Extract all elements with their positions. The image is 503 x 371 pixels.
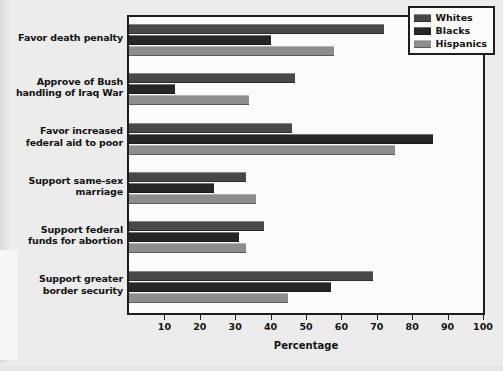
x-axis-tick: [271, 315, 272, 320]
legend-swatch-icon: [414, 14, 431, 22]
category-label-line: Support federal: [3, 224, 123, 236]
category-label-line: Favor death penalty: [3, 32, 123, 44]
x-axis-title: Percentage: [129, 340, 483, 351]
legend-label: Hispanics: [436, 38, 487, 49]
legend-item[interactable]: Hispanics: [414, 37, 487, 50]
category-label-line: border security: [3, 285, 123, 297]
x-axis-tick-label: 20: [193, 321, 206, 332]
bar-group: [129, 221, 483, 254]
bar-row: [129, 145, 483, 155]
bar[interactable]: [129, 172, 246, 182]
category-label: Support same-sexmarriage: [3, 175, 123, 198]
x-axis-tick: [412, 315, 413, 320]
x-axis-tick-label: 80: [406, 321, 419, 332]
bar-row: [129, 243, 483, 253]
category-label: Favor increasedfederal aid to poor: [3, 125, 123, 148]
bar[interactable]: [129, 73, 295, 83]
bar-row: [129, 271, 483, 281]
bar[interactable]: [129, 271, 373, 281]
bar[interactable]: [129, 293, 288, 303]
category-label-line: handling of Iraq War: [3, 87, 123, 99]
x-axis-tick-label: 40: [264, 321, 277, 332]
x-axis-tick: [448, 315, 449, 320]
x-axis-tick: [306, 315, 307, 320]
bar-row: [129, 194, 483, 204]
category-label-line: federal aid to poor: [3, 137, 123, 149]
x-axis-tick: [235, 315, 236, 320]
x-axis-tick: [377, 315, 378, 320]
bar-row: [129, 293, 483, 303]
x-axis-tick: [483, 315, 484, 320]
x-axis-tick-label: 10: [158, 321, 171, 332]
category-label: Approve of Bushhandling of Iraq War: [3, 76, 123, 99]
legend-item[interactable]: Whites: [414, 11, 487, 24]
x-axis-tick: [341, 315, 342, 320]
bar[interactable]: [129, 194, 256, 204]
category-label-line: Favor increased: [3, 125, 123, 137]
bar-group: [129, 172, 483, 205]
category-label-line: Support same-sex: [3, 175, 123, 187]
bar-row: [129, 172, 483, 182]
bar[interactable]: [129, 35, 271, 45]
bar[interactable]: [129, 24, 384, 34]
bar-row: [129, 232, 483, 242]
bar-row: [129, 183, 483, 193]
legend-label: Whites: [436, 12, 473, 23]
category-label-line: marriage: [3, 186, 123, 198]
x-axis-tick: [164, 315, 165, 320]
x-axis-tick-label: 50: [299, 321, 312, 332]
x-axis-tick-label: 70: [370, 321, 383, 332]
bar[interactable]: [129, 145, 395, 155]
category-label: Favor death penalty: [3, 32, 123, 44]
bar-group: [129, 123, 483, 156]
legend-swatch-icon: [414, 40, 431, 48]
category-label: Support federalfunds for abortion: [3, 224, 123, 247]
bar-row: [129, 95, 483, 105]
bar-group: [129, 73, 483, 106]
bar-row: [129, 123, 483, 133]
x-axis-tick-label: 30: [229, 321, 242, 332]
x-axis-tick-label: 100: [473, 321, 493, 332]
bar[interactable]: [129, 134, 433, 144]
bar[interactable]: [129, 123, 292, 133]
bar[interactable]: [129, 232, 239, 242]
legend-label: Blacks: [436, 25, 471, 36]
bar[interactable]: [129, 46, 334, 56]
category-label-line: Support greater: [3, 273, 123, 285]
bar[interactable]: [129, 282, 331, 292]
x-axis-tick-label: 90: [441, 321, 454, 332]
page-edge-shading-bottom: [0, 363, 503, 371]
x-axis-tick-label: 60: [335, 321, 348, 332]
bar-row: [129, 84, 483, 94]
legend-swatch-icon: [414, 27, 431, 35]
bar[interactable]: [129, 95, 249, 105]
category-label-line: funds for abortion: [3, 235, 123, 247]
x-axis-tick: [200, 315, 201, 320]
category-label: Support greaterborder security: [3, 273, 123, 296]
bar-row: [129, 221, 483, 231]
plot-area: [129, 17, 483, 313]
bar[interactable]: [129, 221, 264, 231]
legend: WhitesBlacksHispanics: [408, 6, 495, 55]
category-label-line: Approve of Bush: [3, 76, 123, 88]
bar-row: [129, 282, 483, 292]
bar[interactable]: [129, 84, 175, 94]
bar[interactable]: [129, 243, 246, 253]
category-axis-labels: Favor death penaltyApprove of Bushhandli…: [0, 15, 123, 315]
bar-row: [129, 73, 483, 83]
bar-group: [129, 271, 483, 304]
legend-item[interactable]: Blacks: [414, 24, 487, 37]
chart-figure: Favor death penaltyApprove of Bushhandli…: [0, 0, 503, 371]
bar-row: [129, 134, 483, 144]
bar[interactable]: [129, 183, 214, 193]
